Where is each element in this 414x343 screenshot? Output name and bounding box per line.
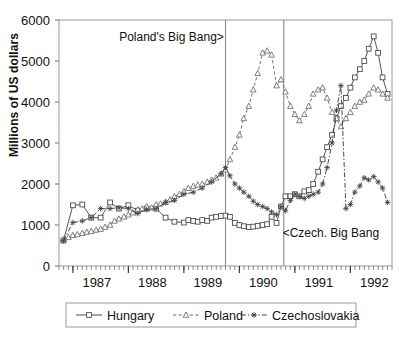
y-tick-label: 4000 [21, 95, 50, 110]
data-point-triangle [324, 95, 330, 100]
data-point-star [227, 173, 233, 179]
legend-label: Poland [204, 309, 243, 323]
data-point-star [181, 191, 187, 197]
data-point-star [250, 198, 256, 204]
data-point-square [316, 169, 321, 174]
data-point-square [380, 75, 385, 80]
data-point-star [352, 189, 358, 195]
x-tick-label: 1990 [249, 275, 278, 290]
data-point-square [108, 200, 113, 205]
x-tick-label: 1992 [360, 275, 389, 290]
data-point-triangle [250, 87, 256, 92]
data-point-triangle [288, 103, 294, 108]
data-point-star [218, 171, 224, 177]
data-point-square [172, 219, 177, 224]
chart-figure: Millions of US dollars 01000200030004000… [0, 0, 414, 343]
data-point-triangle [237, 132, 243, 137]
data-point-triangle [75, 231, 81, 236]
chart-annotation: <Czech. Big Bang [283, 226, 379, 240]
data-point-star [343, 206, 349, 212]
y-tick-label: 0 [43, 259, 50, 274]
data-point-star [98, 206, 104, 212]
data-point-star [371, 174, 377, 180]
data-point-star [126, 206, 132, 212]
data-point-star [144, 207, 150, 213]
data-point-square [80, 202, 85, 207]
chart-svg: 0100020003000400050006000198719881989199… [0, 0, 414, 343]
data-point-square [320, 157, 325, 162]
data-point-triangle [186, 185, 192, 190]
data-point-triangle [255, 70, 261, 75]
data-point-square [163, 215, 168, 220]
data-point-square [87, 313, 92, 318]
data-point-square [265, 222, 270, 227]
data-point-square [357, 67, 362, 72]
data-point-triangle [306, 103, 312, 108]
data-point-square [269, 214, 274, 219]
data-point-star [135, 211, 141, 217]
data-point-square [200, 218, 205, 223]
data-point-star [288, 198, 294, 204]
legend-label: Czechoslovakia [272, 309, 360, 323]
data-point-square [325, 145, 330, 150]
data-point-star [223, 165, 229, 171]
data-point-square [371, 34, 376, 39]
data-point-star [310, 191, 316, 197]
data-point-star [241, 189, 247, 195]
y-tick-label: 5000 [21, 54, 50, 69]
data-point-star [116, 205, 122, 211]
data-point-star [385, 200, 391, 206]
data-point-triangle [246, 103, 252, 108]
data-point-triangle [227, 156, 233, 161]
y-tick-label: 2000 [21, 177, 50, 192]
data-point-star [255, 202, 261, 208]
data-point-star [320, 181, 326, 187]
data-point-square [214, 214, 219, 219]
data-point-star [70, 220, 76, 226]
data-point-square [376, 50, 381, 55]
data-point-star [172, 198, 178, 204]
data-point-star [334, 107, 340, 113]
x-tick-label: 1989 [193, 275, 222, 290]
x-tick-label: 1988 [138, 275, 167, 290]
data-point-square [255, 223, 260, 228]
data-point-star [191, 189, 197, 195]
data-point-square [348, 85, 353, 90]
data-point-square [186, 218, 191, 223]
data-point-star [251, 312, 257, 318]
data-point-star [315, 189, 321, 195]
data-point-star [153, 206, 159, 212]
data-point-triangle [371, 85, 377, 90]
data-point-square [283, 194, 288, 199]
data-point-star [163, 200, 169, 206]
legend-label: Hungary [107, 309, 155, 323]
data-point-square [70, 203, 75, 208]
data-point-star [274, 212, 280, 218]
data-point-star [329, 140, 335, 146]
chart-annotation: Poland's Big Bang> [119, 30, 224, 44]
data-point-star [283, 208, 289, 214]
data-point-square [352, 75, 357, 80]
data-point-star [264, 206, 270, 212]
data-point-star [88, 215, 94, 221]
data-point-star [357, 183, 363, 189]
data-point-triangle [302, 111, 308, 116]
data-point-star [324, 165, 330, 171]
data-point-star [338, 83, 344, 89]
data-point-star [232, 181, 238, 187]
data-point-square [311, 182, 316, 187]
data-point-square [98, 215, 103, 220]
data-point-star [269, 209, 275, 215]
data-point-star [380, 185, 386, 191]
x-tick-label: 1987 [82, 275, 111, 290]
data-point-square [228, 214, 233, 219]
data-point-star [297, 194, 303, 200]
data-point-star [246, 194, 252, 200]
data-point-triangle [232, 144, 238, 149]
data-point-star [199, 185, 205, 191]
data-point-triangle [320, 85, 326, 90]
y-tick-label: 3000 [21, 136, 50, 151]
data-point-star [366, 177, 372, 183]
data-point-star [209, 179, 215, 185]
data-point-triangle [348, 109, 354, 114]
